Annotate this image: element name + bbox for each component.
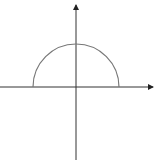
semicircle-diagram bbox=[0, 0, 157, 160]
